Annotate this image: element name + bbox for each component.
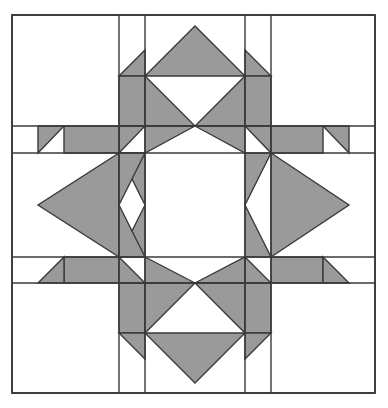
patch-left-band-lower <box>64 257 119 283</box>
patch-bottom-band-right-chevron <box>245 283 271 333</box>
patch-right-band-lower <box>271 257 323 283</box>
patch-top-band-right-chevron <box>245 76 271 126</box>
quilt-block-diagram: Quilt Block Pattern <box>0 0 388 408</box>
patch-top-band-left-chevron <box>119 76 145 126</box>
quilt-diagram-canvas: Quilt Block Pattern <box>0 0 388 408</box>
patch-right-band-upper <box>271 126 323 153</box>
patch-left-band-upper <box>64 126 119 153</box>
patch-bottom-band-left-chevron <box>119 283 145 333</box>
